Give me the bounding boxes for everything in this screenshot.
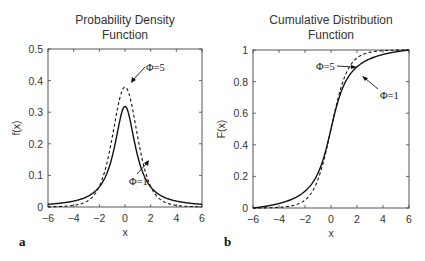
x-tick-label: 6 [406,213,412,225]
x-tick-label: −6 [42,212,54,224]
cdf-annotation-phi5-arrow [337,66,353,67]
pdf-annotation-phi5-arrow [133,67,145,80]
cdf-chart: Cumulative Distribution Function −6−4−20… [215,13,412,249]
pdf-curve-phi5 [48,87,202,207]
cdf-annotation-phi5: Φ=5 [316,61,335,72]
pdf-curves [48,87,202,207]
cdf-curve-phi1 [253,50,409,208]
pdf-annotation-phi5: Φ=5 [146,62,165,73]
cdf-title-line2: Function [308,28,354,42]
y-tick-label: 0.5 [28,43,43,55]
x-tick-label: 2 [354,213,360,225]
pdf-title-line2: Function [102,28,148,42]
x-tick-label: 6 [199,212,205,224]
panel-label-a: a [19,234,26,249]
y-tick-label: 0.6 [233,107,248,119]
x-tick-label: 0 [122,212,128,224]
y-tick-label: 0 [37,201,43,213]
x-tick-label: −2 [93,212,105,224]
x-tick-label: 4 [380,213,386,225]
x-tick-label: −6 [247,213,259,225]
pdf-curve-phi1 [48,106,202,204]
cdf-annotation-phi1: Φ=1 [380,90,399,101]
x-tick-label: −2 [299,213,311,225]
y-tick-label: 0.4 [28,75,43,87]
cdf-ylabel: F(x) [215,120,227,139]
y-tick-label: 0.4 [233,139,248,151]
y-tick-label: 1 [242,44,248,56]
pdf-ylabel: f(x) [10,120,22,135]
y-tick-label: 0.1 [28,169,43,181]
panel-label-b: b [224,234,231,249]
pdf-chart: Probability Density Function −6−4−202460… [10,13,205,249]
y-tick-label: 0.2 [233,170,248,182]
x-tick-label: 4 [173,212,179,224]
cdf-title-line1: Cumulative Distribution [269,13,392,27]
x-tick-label: −4 [273,213,285,225]
figure: Probability Density Function −6−4−202460… [0,0,425,261]
pdf-annotation-phi1: Φ=1 [129,176,148,187]
pdf-xlabel: x [122,226,128,238]
cdf-xlabel: x [328,227,334,239]
cdf-curves [253,50,409,208]
x-tick-label: −4 [68,212,80,224]
x-tick-label: 2 [148,212,154,224]
y-tick-label: 0.2 [28,138,43,150]
y-tick-label: 0.8 [233,76,248,88]
cdf-annotation-phi1-arrow [366,79,378,89]
x-tick-label: 0 [328,213,334,225]
y-tick-label: 0.3 [28,106,43,118]
y-tick-label: 0 [242,202,248,214]
pdf-title-line1: Probability Density [75,13,174,27]
pdf-plot-frame [48,49,202,207]
